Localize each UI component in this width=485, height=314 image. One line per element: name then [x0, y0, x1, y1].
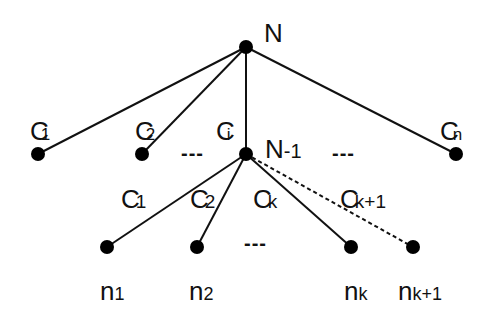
edge-label-gk: Ck: [253, 186, 277, 212]
edge-label-ci-sub: i: [227, 125, 231, 144]
edge-label-gk1-sub: k+1: [355, 191, 386, 212]
edges-layer: [0, 0, 485, 314]
ci-node-label-main: N: [265, 134, 284, 164]
node-root: [239, 40, 253, 54]
node-n2: [190, 240, 204, 254]
edge-label-c2-sub: 2: [146, 125, 155, 144]
leaf-label-nk1-sub: k+1: [412, 284, 442, 304]
ellipsis-right: ---: [332, 143, 355, 163]
leaf-label-n1-sub: 1: [114, 284, 124, 304]
ci-node-label: N-1: [265, 136, 302, 162]
edge-label-g1: C1: [121, 186, 146, 212]
leaf-label-n2-sub: 2: [203, 284, 213, 304]
edge-label-c1-sub: 1: [41, 125, 50, 144]
ellipsis-left: ---: [181, 143, 204, 163]
node-nk: [344, 240, 358, 254]
edge-label-ci-main: C: [216, 116, 235, 146]
ci-node-label-sub: -1: [284, 140, 302, 162]
tree-diagram: N C1 C2 Ci Cn N-1 --- --- C1 C2 Ck Ck+1 …: [0, 0, 485, 314]
leaf-label-nk-main: n: [344, 276, 358, 306]
edge-label-gk1: Ck+1: [340, 186, 386, 212]
leaf-label-n1: n1: [100, 278, 124, 304]
node-cn: [449, 147, 463, 161]
leaf-label-nk1-main: n: [398, 276, 412, 306]
edge-label-cn-sub: n: [453, 125, 462, 144]
leaf-label-n2-main: n: [189, 276, 203, 306]
leaf-label-nk1: nk+1: [398, 278, 442, 304]
node-c1: [31, 147, 45, 161]
edge-label-c1: C1: [30, 118, 50, 144]
node-c2: [135, 147, 149, 161]
root-label-main: N: [264, 18, 283, 48]
node-ci: [239, 147, 253, 161]
edge-label-g2: C2: [190, 186, 215, 212]
leaf-label-nk: nk: [344, 278, 367, 304]
leaf-label-n2: n2: [189, 278, 213, 304]
edge-label-g2-sub: 2: [205, 191, 216, 212]
ellipsis-bottom: ---: [244, 233, 267, 253]
leaf-label-n1-main: n: [100, 276, 114, 306]
root-label: N: [264, 20, 283, 46]
edge-label-gk-sub: k: [268, 191, 278, 212]
node-nk1: [406, 240, 420, 254]
edge-label-g1-sub: 1: [136, 191, 147, 212]
edge-label-cn: Cn: [440, 118, 462, 144]
leaf-label-nk-sub: k: [358, 284, 367, 304]
node-n1: [100, 240, 114, 254]
edge-label-ci: Ci: [216, 118, 231, 144]
edge-label-c2: C2: [135, 118, 155, 144]
